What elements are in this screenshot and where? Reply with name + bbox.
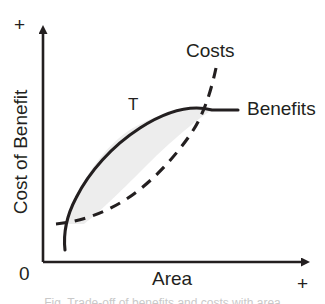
figure-container: Cost of Benefit Area + + 0 Costs Benefit…: [0, 0, 325, 304]
shaded-region-t: [66, 109, 212, 224]
x-axis-plus-label: +: [297, 274, 308, 293]
origin-label: 0: [19, 264, 30, 283]
benefits-curve-label: Benefits: [247, 99, 316, 118]
figure-caption-clipped: Fig. Trade-off of benefits and costs wit…: [0, 296, 325, 304]
y-axis-plus-label: +: [14, 15, 25, 34]
costs-curve-label: Costs: [186, 41, 235, 60]
x-axis-label: Area: [152, 269, 192, 288]
region-label-t: T: [128, 96, 138, 113]
y-axis-label: Cost of Benefit: [11, 57, 33, 247]
chart-canvas: [0, 0, 325, 304]
